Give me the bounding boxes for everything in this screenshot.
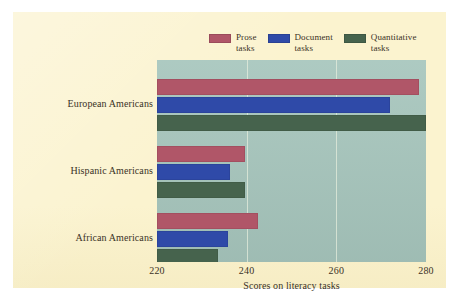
legend-label-prose: Prose tasks: [236, 32, 257, 53]
chart-paper-panel: Prose tasks Document tasks Quantitative …: [13, 12, 446, 288]
bar-group-hispanic-americans: [157, 146, 426, 198]
bar-group-european-americans: [157, 79, 426, 131]
bar-hispanic-americans-prose: [157, 146, 245, 162]
x-axis-tick-labels: 220 240 260 280: [157, 265, 426, 278]
bar-african-americans-prose: [157, 213, 258, 229]
category-label-hispanic-americans: Hispanic Americans: [23, 165, 153, 176]
plot-area: [157, 60, 426, 262]
chart-legend: Prose tasks Document tasks Quantitative …: [209, 32, 445, 60]
legend-swatch-document-icon: [268, 34, 290, 43]
x-tick-260: 260: [329, 265, 345, 276]
x-axis-title: Scores on literacy tasks: [157, 280, 426, 291]
x-tick-280: 280: [418, 265, 434, 276]
x-tick-240: 240: [239, 265, 255, 276]
bar-african-americans-document: [157, 231, 228, 247]
legend-entry-prose: Prose tasks: [209, 32, 257, 53]
bar-european-americans-document: [157, 97, 390, 113]
bar-hispanic-americans-quantitative: [157, 182, 245, 198]
bar-hispanic-americans-document: [157, 164, 230, 180]
y-axis-category-labels: European Americans Hispanic Americans Af…: [17, 60, 153, 262]
legend-entry-quantitative: Quantitative tasks: [344, 32, 417, 53]
legend-entry-document: Document tasks: [268, 32, 333, 53]
category-label-african-americans: African Americans: [23, 232, 153, 243]
bar-european-americans-prose: [157, 79, 419, 95]
legend-swatch-quantitative-icon: [344, 34, 366, 43]
legend-swatch-prose-icon: [209, 34, 231, 43]
legend-label-document: Document tasks: [295, 32, 333, 53]
legend-label-quantitative: Quantitative tasks: [371, 32, 417, 53]
bar-european-americans-quantitative: [157, 115, 426, 131]
chart-figure: Prose tasks Document tasks Quantitative …: [0, 0, 458, 302]
x-tick-220: 220: [149, 265, 165, 276]
category-label-european-americans: European Americans: [23, 98, 153, 109]
bar-african-americans-quantitative: [157, 249, 218, 262]
bar-group-african-americans: [157, 213, 426, 262]
